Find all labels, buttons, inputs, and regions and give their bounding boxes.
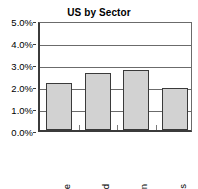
y-tick-label: 0.0%: [11, 127, 33, 138]
bar: [123, 70, 149, 131]
y-tick-mark: [33, 66, 36, 67]
y-tick-mark: [33, 44, 36, 45]
plot-area: [38, 22, 192, 132]
x-category-label: Textile: [61, 184, 72, 189]
bar-chart: US by Sector 0.0%1.0%2.0%3.0%4.0%5.0% Te…: [0, 0, 198, 189]
x-category-label: Engin: [138, 184, 149, 189]
y-tick-label: 5.0%: [11, 17, 33, 28]
x-tick-mark: [79, 125, 80, 130]
bar: [162, 88, 188, 130]
bars-layer: [40, 23, 191, 130]
y-tick-mark: [33, 110, 36, 111]
y-axis: 0.0%1.0%2.0%3.0%4.0%5.0%: [0, 22, 36, 132]
x-category-label: Stores: [177, 184, 188, 189]
y-tick-label: 2.0%: [11, 83, 33, 94]
bar: [85, 73, 111, 130]
x-axis: TextileFoodEnginStores: [38, 136, 192, 188]
bar: [46, 83, 72, 130]
y-tick-label: 3.0%: [11, 61, 33, 72]
y-tick-label: 4.0%: [11, 39, 33, 50]
y-tick-mark: [33, 22, 36, 23]
x-category-label: Food: [100, 184, 111, 189]
x-tick-mark: [117, 125, 118, 130]
x-tick-mark: [156, 125, 157, 130]
y-tick-mark: [33, 88, 36, 89]
y-tick-mark: [33, 132, 36, 133]
y-tick-label: 1.0%: [11, 105, 33, 116]
